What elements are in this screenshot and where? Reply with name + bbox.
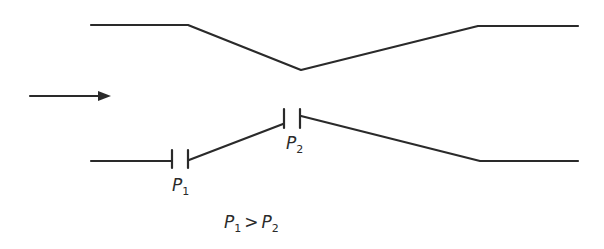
lower-wall-converging bbox=[189, 124, 283, 160]
flow-arrow-head bbox=[98, 91, 111, 101]
upper-wall bbox=[91, 25, 578, 70]
p2-label: P2 bbox=[286, 133, 303, 156]
pressure-relation: P1>P2 bbox=[224, 212, 279, 235]
venturi-diagram bbox=[0, 0, 604, 249]
lower-wall-diverging bbox=[301, 116, 578, 161]
p1-label: P1 bbox=[172, 175, 189, 198]
